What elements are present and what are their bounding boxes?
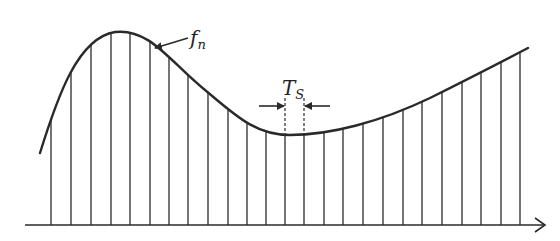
period-label-main: T [282,76,295,100]
curve-pointer-arrow-icon [155,38,188,48]
sampling-period-marker [259,98,330,134]
sampling-diagram [0,0,560,241]
curve-label: fn [190,28,206,51]
period-label-subscript: S [295,87,304,102]
curve-pointer [155,38,188,48]
curve-label-subscript: n [197,37,205,52]
period-label: TS [282,78,304,101]
